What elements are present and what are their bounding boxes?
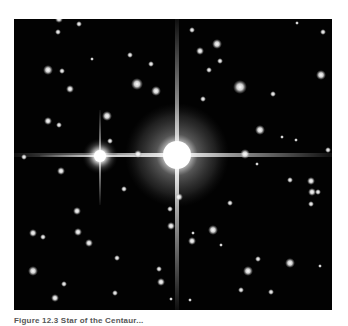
star-field-photo [14,19,332,310]
star-field-image [14,19,332,310]
figure-caption: Figure 12.3 Star of the Centaur... [14,316,144,326]
